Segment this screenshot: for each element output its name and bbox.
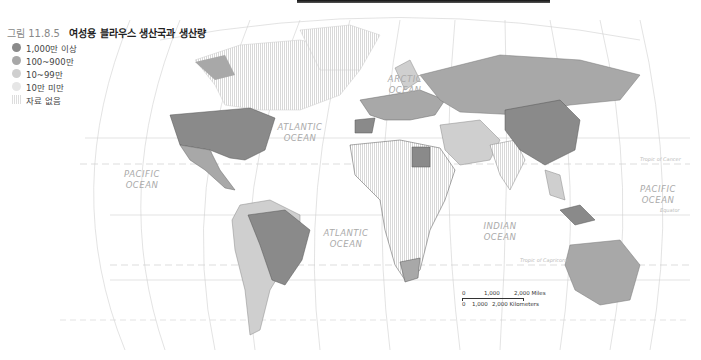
ocean-label: PACIFIC — [124, 169, 160, 179]
tropic-capricorn-label: Tropic of Capricorn — [520, 257, 567, 264]
legend-swatch-icon — [12, 56, 21, 65]
legend-item: 100~900만 — [12, 54, 77, 67]
australia-region — [565, 240, 640, 305]
legend-swatch-icon — [12, 69, 21, 78]
svg-text:OCEAN: OCEAN — [284, 133, 317, 143]
svg-text:OCEAN: OCEAN — [484, 232, 517, 242]
equator-label: Equator — [660, 207, 681, 214]
ocean-label: PACIFIC — [640, 184, 676, 194]
svg-text:OCEAN: OCEAN — [330, 239, 363, 249]
legend-item: 1,000만 이상 — [12, 41, 77, 54]
legend-swatch-icon — [12, 82, 21, 91]
legend-hatch-icon — [12, 95, 21, 104]
ocean-label: INDIAN — [483, 221, 516, 231]
ocean-label: ATLANTIC — [277, 122, 323, 132]
legend-swatch-icon — [12, 43, 21, 52]
africa-region — [350, 140, 455, 280]
southeast-asia-region — [545, 170, 565, 200]
world-map: ARCTIC OCEAN ATLANTIC OCEAN PACIFIC OCEA… — [0, 0, 701, 360]
egypt-region — [412, 147, 430, 167]
middle-east-region — [440, 120, 500, 165]
svg-text:OCEAN: OCEAN — [126, 180, 159, 190]
indonesia-region — [560, 205, 595, 225]
ocean-label: ATLANTIC — [323, 228, 369, 238]
figure-title: 그림 11.8.5 여성용 블라우스 생산국과 생산량 — [7, 25, 206, 40]
legend-item: 10만 미만 — [12, 80, 77, 93]
spain-region — [355, 118, 375, 133]
tropic-cancer-label: Tropic of Cancer — [640, 156, 682, 163]
svg-text:OCEAN: OCEAN — [642, 195, 675, 205]
legend-item: 10~99만 — [12, 67, 77, 80]
south-africa-region — [400, 258, 420, 282]
legend: 1,000만 이상 100~900만 10~99만 10만 미만 자료 없음 — [12, 41, 77, 106]
svg-text:OCEAN: OCEAN — [389, 85, 422, 95]
legend-item: 자료 없음 — [12, 93, 77, 106]
ocean-label: ARCTIC — [387, 74, 422, 84]
figure-number: 그림 11.8.5 — [7, 28, 60, 39]
figure-caption: 여성용 블라우스 생산국과 생산량 — [69, 28, 205, 39]
scale-bar: 0 1,000 2,000 Miles 0 1,000 2,000 Kilome… — [462, 290, 552, 309]
